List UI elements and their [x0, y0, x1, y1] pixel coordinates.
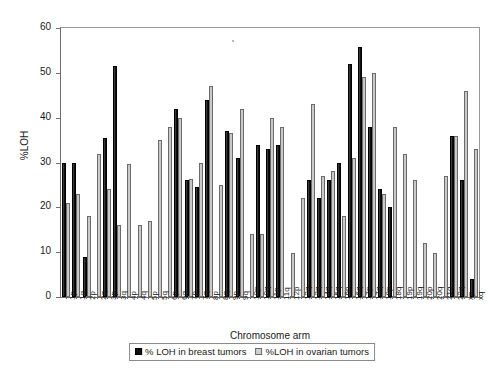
x-axis-tick-mark — [362, 296, 363, 299]
bar-ovarian — [107, 189, 111, 297]
grey-square-swatch-icon — [255, 348, 262, 355]
x-axis-tick-mark — [433, 296, 434, 299]
bar-group — [346, 28, 356, 297]
y-axis-tick-mark — [56, 118, 60, 119]
bar-group — [204, 28, 214, 297]
bar-ovarian — [362, 77, 366, 297]
bar-ovarian — [219, 185, 223, 297]
bar-ovarian — [321, 176, 325, 297]
bar-ovarian — [444, 176, 448, 297]
x-axis-tick-mark — [413, 296, 414, 299]
chart-figure: %LOH 0102030405060 1p1q2p2q3p3q4p4q5p5q6… — [0, 0, 504, 368]
bar-ovarian — [199, 163, 203, 298]
bar-group — [295, 28, 305, 297]
bar-ovarian — [87, 216, 91, 297]
bar-ovarian — [127, 164, 131, 297]
bar-group — [61, 28, 71, 297]
y-axis-tick-mark — [56, 28, 60, 29]
bar-group — [71, 28, 81, 297]
bar-group — [143, 28, 153, 297]
y-axis-tick-mark — [56, 163, 60, 164]
legend-label-breast: % LOH in breast tumors — [145, 346, 246, 357]
bar-ovarian — [372, 73, 376, 297]
bar-ovarian — [66, 203, 70, 297]
bar-ovarian — [464, 91, 468, 297]
bar-ovarian — [474, 149, 478, 297]
bar-group — [102, 28, 112, 297]
x-axis-tick-mark — [209, 296, 210, 299]
bar-group — [122, 28, 132, 297]
bar-ovarian — [331, 171, 335, 297]
x-axis-tick-mark — [331, 296, 332, 299]
bar-group — [183, 28, 193, 297]
bar-ovarian — [413, 180, 417, 297]
bar-group — [428, 28, 438, 297]
y-axis-tick-mark — [56, 207, 60, 208]
bar-group — [326, 28, 336, 297]
bar-group — [194, 28, 204, 297]
bar-group — [367, 28, 377, 297]
bar-group — [173, 28, 183, 297]
bar-ovarian — [168, 127, 172, 297]
x-axis-tick-mark — [372, 296, 373, 299]
x-axis-tick-mark — [97, 296, 98, 299]
x-axis-tick-mark — [260, 296, 261, 299]
bar-ovarian — [97, 154, 101, 297]
bar-group — [418, 28, 428, 297]
bar-group — [92, 28, 102, 297]
x-axis-tick-mark — [199, 296, 200, 299]
bar-group — [448, 28, 458, 297]
legend-item-ovarian: %LOH in ovarian tumors — [255, 346, 368, 357]
y-axis-tick-label: 60 — [40, 21, 51, 32]
x-axis-tick-mark — [117, 296, 118, 299]
bar-ovarian — [393, 127, 397, 297]
x-axis-tick-mark — [454, 296, 455, 299]
bar-ovarian — [189, 179, 193, 297]
bar-ovarian — [454, 136, 458, 297]
bar-group — [408, 28, 418, 297]
x-axis-tick-mark — [250, 296, 251, 299]
x-axis-tick-mark — [168, 296, 169, 299]
y-axis-tick-label: 40 — [40, 111, 51, 122]
y-axis-tick-label: 0 — [45, 290, 51, 301]
x-axis-tick-mark — [321, 296, 322, 299]
legend-item-breast: % LOH in breast tumors — [135, 346, 246, 357]
bar-ovarian — [158, 140, 162, 297]
x-axis-tick-mark — [382, 296, 383, 299]
bar-ovarian — [148, 221, 152, 297]
bar-group — [438, 28, 448, 297]
bar-ovarian — [229, 133, 233, 297]
x-axis-tick-mark — [219, 296, 220, 299]
y-axis-tick-label: 50 — [40, 66, 51, 77]
bar-group — [163, 28, 173, 297]
x-axis-tick-mark — [403, 296, 404, 299]
bar-ovarian — [138, 225, 142, 297]
bar-group — [255, 28, 265, 297]
x-axis-tick-mark — [66, 296, 67, 299]
x-axis-tick-mark — [107, 296, 108, 299]
chart-legend: % LOH in breast tumors %LOH in ovarian t… — [129, 343, 375, 361]
bar-ovarian — [301, 198, 305, 297]
bar-group — [112, 28, 122, 297]
bar-group — [224, 28, 234, 297]
bar-group — [153, 28, 163, 297]
y-axis-tick-label: 30 — [40, 156, 51, 167]
black-square-swatch-icon — [135, 348, 142, 355]
bar-group — [132, 28, 142, 297]
x-axis-tick-mark — [464, 296, 465, 299]
bar-group — [316, 28, 326, 297]
bar-group — [306, 28, 316, 297]
y-axis-tick-label: 20 — [40, 200, 51, 211]
x-axis-tick-mark — [270, 296, 271, 299]
x-axis-tick-mark — [423, 296, 424, 299]
bar-group — [81, 28, 91, 297]
bar-ovarian — [240, 109, 244, 297]
y-axis-tick-mark — [56, 73, 60, 74]
bar-group — [357, 28, 367, 297]
x-axis-tick-mark — [352, 296, 353, 299]
bar-group — [285, 28, 295, 297]
bar-ovarian — [280, 127, 284, 297]
y-axis-tick-mark — [56, 297, 60, 298]
bar-group — [275, 28, 285, 297]
bar-group — [397, 28, 407, 297]
